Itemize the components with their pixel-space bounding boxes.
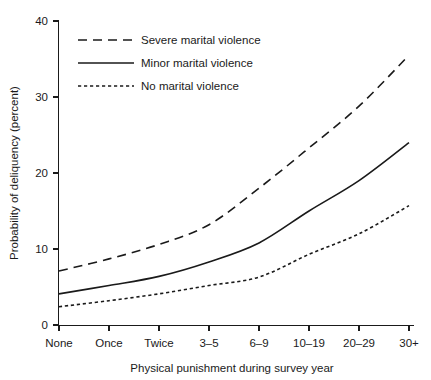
x-tick-label-6-9: 6–9 [249,337,268,349]
x-tick-label-once: Once [95,337,123,349]
x-tick-label-none: None [45,337,73,349]
y-tick-label-10: 10 [35,243,48,255]
legend-label-minor: Minor marital violence [141,57,253,69]
legend: Severe marital violence Minor marital vi… [78,34,261,92]
legend-label-severe: Severe marital violence [141,34,261,46]
legend-label-none: No marital violence [141,80,239,92]
y-tick-label-20: 20 [35,167,48,179]
x-axis-ticks [59,326,409,332]
x-tick-label-10-19: 10–19 [293,337,325,349]
x-tick-label-twice: Twice [144,337,173,349]
y-axis-ticks [53,21,59,325]
data-series-group [59,55,409,307]
y-tick-label-30: 30 [35,91,48,103]
x-axis-title: Physical punishment during survey year [130,362,333,374]
chart-figure: 40 30 20 10 0 None Once Twice 3–5 6–9 10… [0,0,431,380]
series-line-no-marital-violence [59,206,409,307]
y-axis-title: Probability of deliquency (percent) [8,86,20,260]
line-chart: 40 30 20 10 0 None Once Twice 3–5 6–9 10… [0,0,431,380]
y-axis-tick-labels: 40 30 20 10 0 [35,15,48,331]
series-line-minor-marital-violence [59,143,409,294]
x-tick-label-30-plus: 30+ [399,337,419,349]
y-tick-label-40: 40 [35,15,48,27]
x-axis-tick-labels: None Once Twice 3–5 6–9 10–19 20–29 30+ [45,337,419,349]
x-tick-label-20-29: 20–29 [343,337,375,349]
y-tick-label-0: 0 [42,319,48,331]
x-tick-label-3-5: 3–5 [199,337,218,349]
